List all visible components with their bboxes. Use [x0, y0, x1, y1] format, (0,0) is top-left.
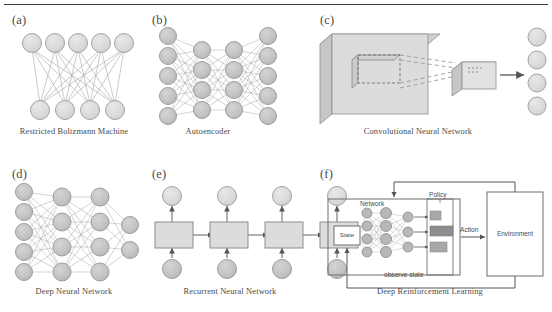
panel-b-autoencoder [160, 28, 277, 125]
caption-autoencoder: Autoencoder [152, 127, 264, 136]
figure-root: (a) (b) (c) (d) (e) (f) Restricted Boltz… [0, 0, 552, 312]
panel-label-a: (a) [12, 13, 26, 28]
cnn-output-nodes [528, 28, 546, 115]
panel-c-cnn [320, 28, 546, 124]
panel-label-c: (c) [320, 13, 334, 28]
drl-action-label: Action [460, 226, 478, 233]
drl-reward-feedback [394, 182, 515, 197]
rnn-output-nodes [163, 187, 347, 206]
diagram-canvas [0, 0, 552, 312]
panel-label-f: (f) [320, 167, 333, 182]
dnn-edges [24, 192, 130, 272]
drl-policy-bars [430, 211, 453, 252]
drl-policy-box [427, 199, 453, 275]
panel-e-rnn [155, 187, 358, 279]
cnn-input-volume [320, 34, 440, 124]
cnn-projection-lines [400, 55, 456, 88]
cnn-feature-map-volume [452, 62, 496, 96]
panel-d-dnn [16, 184, 139, 282]
drl-state-label: State [334, 231, 360, 238]
cnn-receptive-field [352, 55, 400, 88]
caption-rbm: Restricted Boltzmann Machine [0, 127, 148, 136]
drl-observe-loop [347, 248, 515, 288]
drl-policy-label: Policy [429, 191, 447, 198]
dnn-nodes [16, 184, 139, 282]
panel-label-d: (d) [12, 167, 27, 182]
drl-network-nodes [362, 208, 413, 258]
header-rule [4, 4, 548, 5]
rnn-cells [155, 222, 358, 248]
panel-a-rbm [23, 34, 134, 120]
panel-label-e: (e) [152, 167, 166, 182]
rbm-visible-nodes [23, 34, 134, 53]
drl-policy-arrows [414, 217, 428, 247]
panel-label-b: (b) [152, 13, 167, 28]
drl-network-edges [360, 213, 408, 252]
ae-nodes [160, 28, 277, 125]
caption-cnn: Convolutional Neural Network [318, 127, 518, 136]
caption-dnn: Deep Neural Network [0, 287, 148, 296]
caption-drl: Deep Reinforcement Learning [330, 287, 530, 296]
rbm-edges [32, 49, 124, 104]
drl-environment-label: Environment [487, 230, 543, 237]
drl-observe-state-label: observe state [384, 271, 424, 278]
rnn-io-arrows [172, 206, 337, 258]
rbm-hidden-nodes [31, 101, 125, 120]
caption-rnn: Recurrent Neural Network [150, 287, 310, 296]
drl-network-label: Network [360, 200, 384, 207]
rnn-input-nodes [163, 260, 347, 279]
ae-edges [168, 36, 268, 116]
